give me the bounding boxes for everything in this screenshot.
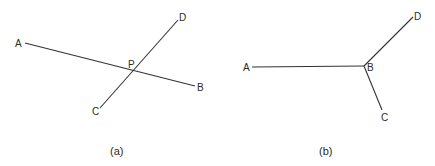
label-a: A xyxy=(243,62,250,73)
label-b: B xyxy=(367,62,374,73)
line-cd xyxy=(100,20,178,108)
label-d: D xyxy=(179,12,186,23)
diagram-canvas: A B C D P (a) A B C D (b) xyxy=(0,0,435,166)
caption-a: (a) xyxy=(110,145,123,157)
label-c: C xyxy=(381,112,388,123)
line-ab xyxy=(25,43,195,86)
label-p: P xyxy=(128,59,135,70)
label-c: C xyxy=(92,106,99,117)
segment-ab xyxy=(252,66,364,67)
label-a: A xyxy=(15,38,22,49)
label-b: B xyxy=(197,82,204,93)
segment-bd xyxy=(364,17,413,66)
panel-a: A B C D P (a) xyxy=(15,12,204,157)
panel-b: A B C D (b) xyxy=(243,11,421,157)
caption-b: (b) xyxy=(319,145,332,157)
label-d: D xyxy=(414,11,421,22)
